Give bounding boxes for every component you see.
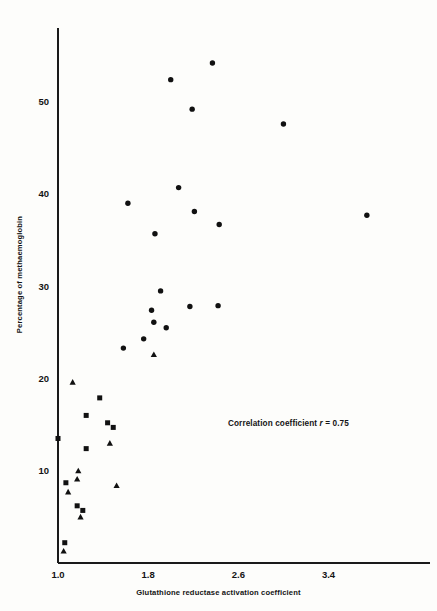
- data-point-circle: [187, 304, 192, 309]
- data-point-square: [62, 540, 67, 545]
- axes: [58, 28, 430, 563]
- data-markers: [56, 60, 370, 553]
- data-point-square: [80, 508, 85, 513]
- data-point-triangle: [151, 351, 157, 357]
- data-point-triangle: [107, 440, 113, 446]
- data-point-triangle: [75, 468, 81, 474]
- data-point-circle: [364, 213, 369, 218]
- data-point-triangle: [70, 379, 76, 385]
- annotation-suffix: = 0.75: [323, 419, 349, 428]
- x-tick-label: 1.8: [142, 569, 155, 580]
- y-tick-label: 20: [38, 373, 49, 384]
- data-point-square: [84, 413, 89, 418]
- data-point-square: [75, 503, 80, 508]
- data-point-square: [63, 480, 68, 485]
- x-axis-tick-labels: 1.01.82.63.4: [51, 569, 335, 580]
- x-axis-title: Glutathione reductase activation coeffic…: [0, 588, 437, 597]
- data-point-circle: [152, 231, 157, 236]
- data-point-triangle: [114, 482, 120, 488]
- data-point-triangle: [77, 514, 83, 520]
- data-point-circle: [125, 201, 130, 206]
- data-point-square: [56, 436, 61, 441]
- data-point-circle: [189, 106, 194, 111]
- y-tick-label: 40: [38, 188, 49, 199]
- y-tick-label: 30: [38, 281, 49, 292]
- data-point-circle: [217, 222, 222, 227]
- data-point-triangle: [61, 548, 67, 554]
- data-point-circle: [151, 320, 156, 325]
- y-tick-label: 50: [38, 96, 49, 107]
- x-tick-label: 3.4: [322, 569, 336, 580]
- data-point-circle: [168, 77, 173, 82]
- data-point-circle: [158, 288, 163, 293]
- data-point-circle: [215, 303, 220, 308]
- y-axis-tick-labels: 1020304050: [38, 96, 49, 476]
- y-tick-label: 10: [38, 465, 49, 476]
- data-point-square: [105, 420, 110, 425]
- data-point-circle: [164, 325, 169, 330]
- scatter-plot-figure: 1020304050 1.01.82.63.4 Percentage of me…: [0, 0, 437, 611]
- data-point-circle: [121, 345, 126, 350]
- x-tick-label: 2.6: [232, 569, 245, 580]
- data-point-circle: [210, 60, 215, 65]
- data-point-circle: [141, 336, 146, 341]
- correlation-annotation: Correlation coefficient r = 0.75: [228, 419, 349, 428]
- y-axis-title: Percentage of methaemoglobin: [15, 190, 24, 360]
- data-point-circle: [149, 308, 154, 313]
- data-point-triangle: [65, 489, 71, 495]
- data-point-circle: [192, 209, 197, 214]
- x-tick-label: 1.0: [51, 569, 64, 580]
- data-point-square: [111, 425, 116, 430]
- annotation-prefix: Correlation coefficient: [228, 419, 320, 428]
- data-point-triangle: [74, 476, 80, 482]
- data-point-circle: [176, 185, 181, 190]
- plot-canvas: 1020304050 1.01.82.63.4: [0, 0, 437, 611]
- data-point-circle: [281, 121, 286, 126]
- data-point-square: [97, 395, 102, 400]
- data-point-square: [84, 446, 89, 451]
